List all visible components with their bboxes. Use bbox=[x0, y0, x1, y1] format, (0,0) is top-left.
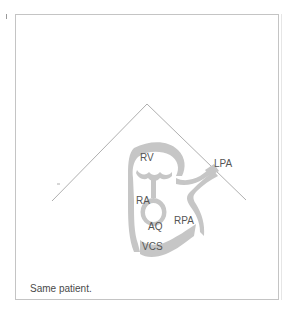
label-rpa: RPA bbox=[174, 216, 194, 226]
label-rv: RV bbox=[140, 153, 154, 163]
septum bbox=[151, 176, 156, 198]
label-vcs: VCS bbox=[142, 242, 163, 252]
label-ra: RA bbox=[136, 196, 150, 206]
figure-caption: Same patient. bbox=[30, 283, 92, 294]
label-lpa: LPA bbox=[214, 159, 232, 169]
label-aq: AQ bbox=[148, 222, 162, 232]
